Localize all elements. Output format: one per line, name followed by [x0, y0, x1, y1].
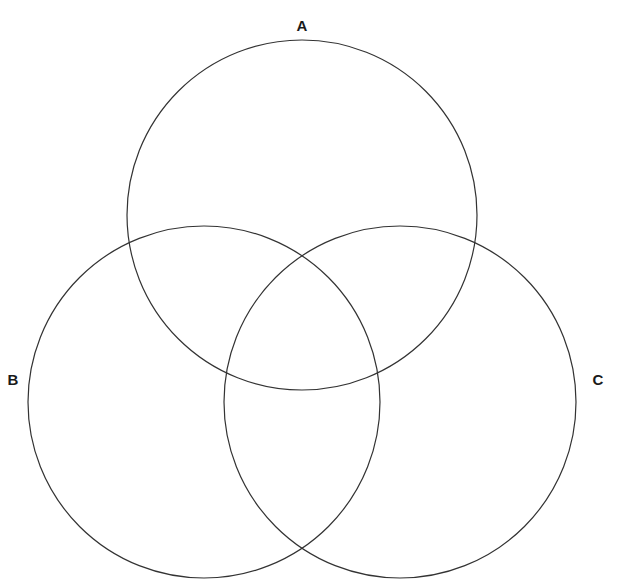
set-label-c: C — [592, 372, 603, 387]
venn-diagram-canvas — [0, 0, 623, 586]
venn-diagram: A B C — [0, 0, 623, 586]
set-label-b: B — [7, 372, 18, 387]
diagram-background — [0, 0, 623, 586]
set-label-a: A — [296, 18, 307, 33]
